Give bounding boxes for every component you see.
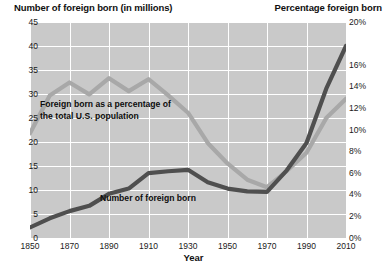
right-tick-label: 8%: [349, 146, 361, 156]
annotation-percentage-line1: Foreign born as a percentage of: [40, 99, 171, 111]
left-tick-label: 40: [29, 41, 38, 51]
left-tick-label: 5: [33, 209, 38, 219]
annotation-percentage: Foreign born as a percentage of the tota…: [40, 99, 171, 122]
x-tick-label: 1850: [10, 241, 50, 251]
left-tick-label: 20: [29, 137, 38, 147]
right-tick-label: 14%: [349, 81, 366, 91]
right-tick-label: 20%: [349, 17, 366, 27]
right-axis-title: Percentage foreign born: [275, 2, 383, 13]
x-tick-label: 1930: [168, 241, 208, 251]
annotation-percentage-line2: the total U.S. population: [40, 111, 171, 123]
x-axis-label: Year: [0, 252, 387, 263]
left-tick-label: 30: [29, 89, 38, 99]
x-tick-label: 1950: [208, 241, 248, 251]
right-tick-label: 12%: [349, 103, 366, 113]
x-tick-label: 2010: [326, 241, 366, 251]
x-tick-label: 1990: [287, 241, 327, 251]
x-tick-label: 1970: [247, 241, 287, 251]
left-tick-label: 45: [29, 17, 38, 27]
right-tick-label: 16%: [349, 60, 366, 70]
series-layer: [30, 22, 346, 238]
annotation-number: Number of foreign born: [100, 193, 196, 205]
foreign-born-chart: Number of foreign born (in millions) Per…: [0, 0, 387, 272]
left-tick-label: 15: [29, 161, 38, 171]
right-tick-label: 4%: [349, 189, 361, 199]
gridline-vertical: [346, 22, 347, 238]
right-tick-label: 2%: [349, 211, 361, 221]
series-svg: [30, 22, 346, 238]
left-axis-title: Number of foreign born (in millions): [14, 2, 172, 13]
left-tick-label: 10: [29, 185, 38, 195]
left-tick-label: 25: [29, 113, 38, 123]
right-tick-label: 10%: [349, 125, 366, 135]
plot-area: [30, 22, 346, 238]
right-tick-label: 6%: [349, 168, 361, 178]
x-tick-label: 1890: [89, 241, 129, 251]
x-tick-label: 1870: [50, 241, 90, 251]
left-tick-label: 35: [29, 65, 38, 75]
x-tick-label: 1910: [129, 241, 169, 251]
